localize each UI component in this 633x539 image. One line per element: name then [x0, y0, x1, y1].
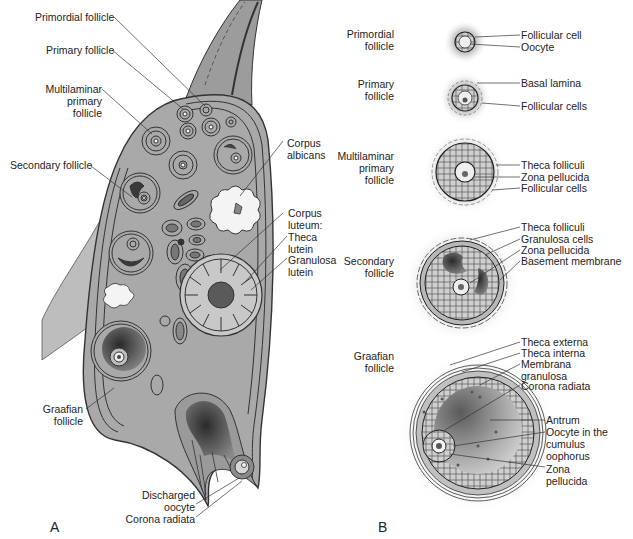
- label-primary-follicle: Primary follicle: [46, 44, 114, 56]
- part-follicular-cells-multilaminar: Follicular cells: [521, 182, 587, 194]
- part-oocyte: Oocyte: [521, 41, 554, 53]
- stage-name-multilaminar: Multilaminar primary follicle: [320, 150, 394, 186]
- part-basal-lamina: Basal lamina: [521, 77, 581, 89]
- part-basement-membrane: Basement membrane: [521, 255, 621, 267]
- part-oocyte-cumulus-oophorus: Oocyte in the cumulus oophorus: [546, 426, 608, 462]
- panel-letter-b: B: [378, 519, 387, 535]
- stage-name-graafian: Graafian follicle: [330, 350, 394, 374]
- part-antrum: Antrum: [546, 414, 580, 426]
- graafian-follicle-shape: [91, 321, 151, 381]
- label-discharged-oocyte: Discharged oocyte: [128, 489, 195, 513]
- stage-name-primary: Primary follicle: [330, 78, 394, 102]
- part-theca-folliculi-multilaminar: Theca folliculi: [521, 159, 585, 171]
- label-secondary-follicle: Secondary follicle: [10, 159, 92, 171]
- label-multilaminar-primary-follicle: Multilaminar primary follicle: [44, 83, 102, 119]
- part-membrana-granulosa: Membrana granulosa: [521, 358, 571, 382]
- ovary-follicle-diagram: Primordial follicle Primary follicle Mul…: [0, 0, 633, 539]
- part-follicular-cells-primary: Follicular cells: [521, 100, 587, 112]
- corpus-luteum-shape: [180, 254, 262, 336]
- part-zona-pellucida-graafian: Zona pellucida: [546, 463, 587, 487]
- stage-name-secondary: Secondary follicle: [330, 255, 394, 279]
- label-theca-lutein: Theca lutein: [288, 231, 317, 255]
- label-corpus-luteum: Corpus luteum:: [288, 207, 322, 231]
- label-graafian-follicle: Graafian follicle: [30, 403, 83, 427]
- label-corona-radiata-a: Corona radiata: [110, 513, 195, 525]
- part-follicular-cell: Follicular cell: [521, 29, 582, 41]
- label-primordial-follicle: Primordial follicle: [35, 11, 114, 23]
- ovary-illustration: [42, 0, 287, 517]
- stage-name-primordial: Primordial follicle: [330, 28, 394, 52]
- part-corona-radiata-b: Corona radiata: [521, 380, 590, 392]
- panel-letter-a: A: [50, 519, 59, 535]
- part-theca-folliculi-secondary: Theca folliculi: [521, 221, 585, 233]
